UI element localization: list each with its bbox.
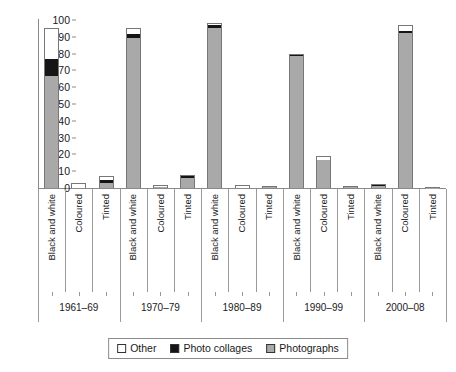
decade-label: 2000–08: [364, 292, 446, 322]
bar: [262, 186, 277, 188]
legend-label-photo-collages: Photo collages: [183, 342, 252, 354]
category-separator: [228, 189, 229, 292]
stacked-bar-chart: 1009080706050403020100 Black and whiteCo…: [0, 0, 456, 372]
plot-area: 1009080706050403020100: [38, 20, 446, 188]
category-separator: [38, 189, 39, 292]
category-label: Black and white: [47, 194, 57, 261]
category-separator: [446, 189, 447, 292]
category-tick-black-and-white: Black and white: [38, 189, 65, 292]
decade-separator: [201, 292, 202, 322]
photo-collages-swatch-icon: [170, 344, 179, 353]
category-tick-coloured: Coloured: [310, 189, 337, 292]
category-tick-coloured: Coloured: [147, 189, 174, 292]
category-label: Tinted: [264, 194, 274, 220]
bar: [235, 185, 250, 188]
category-separator: [419, 189, 420, 292]
bar: [153, 185, 168, 188]
bar: [371, 184, 386, 188]
bar-segment-photographs: [100, 183, 113, 188]
bar-segment-photographs: [263, 187, 276, 188]
bar-segment-photographs: [154, 187, 167, 188]
bar: [71, 183, 86, 188]
category-label: Coloured: [319, 194, 329, 233]
legend-item-photo-collages: Photo collages: [170, 342, 252, 354]
photographs-swatch-icon: [266, 344, 275, 353]
other-swatch-icon: [117, 344, 126, 353]
bar-segment-photographs: [317, 160, 330, 188]
bar: [343, 186, 358, 188]
category-separator: [201, 189, 202, 292]
decade-separator: [283, 292, 284, 322]
decade-label: 1961–69: [38, 292, 120, 322]
bar-segment-photo-collages: [45, 59, 58, 76]
bar-segment-photographs: [127, 38, 140, 188]
category-label: Black and white: [373, 194, 383, 261]
category-separator: [65, 189, 66, 292]
category-label: Coloured: [74, 194, 84, 233]
category-tick-coloured: Coloured: [228, 189, 255, 292]
category-label: Coloured: [237, 194, 247, 233]
bar: [99, 176, 114, 188]
category-tick-black-and-white: Black and white: [283, 189, 310, 292]
decade-label: 1980–89: [201, 292, 283, 322]
category-label: Coloured: [156, 194, 166, 233]
category-tick-tinted: Tinted: [256, 189, 283, 292]
category-label: Black and white: [292, 194, 302, 261]
category-tick-black-and-white: Black and white: [364, 189, 391, 292]
category-label: Coloured: [400, 194, 410, 233]
decade-separator: [120, 292, 121, 322]
bar-segment-photographs: [290, 56, 303, 188]
category-tick-tinted: Tinted: [92, 189, 119, 292]
legend-item-other: Other: [117, 342, 156, 354]
category-label: Tinted: [101, 194, 111, 220]
bar-segment-photographs: [344, 187, 357, 188]
decade-label: 1990–99: [283, 292, 365, 322]
bar: [44, 28, 59, 188]
bar: [207, 23, 222, 188]
category-label: Black and white: [210, 194, 220, 261]
bar-segment-photographs: [208, 28, 221, 188]
bar-segment-other: [45, 29, 58, 60]
category-separator: [337, 189, 338, 292]
category-label: Black and white: [128, 194, 138, 261]
category-separator: [256, 189, 257, 292]
bars-layer: [38, 20, 446, 188]
category-separator: [147, 189, 148, 292]
bar-segment-other: [236, 186, 249, 188]
decade-separator: [38, 292, 39, 322]
bar-segment-photographs: [181, 178, 194, 188]
category-tick-tinted: Tinted: [337, 189, 364, 292]
bar-segment-photographs: [399, 33, 412, 188]
category-label: Tinted: [346, 194, 356, 220]
category-tick-black-and-white: Black and white: [201, 189, 228, 292]
bar: [398, 25, 413, 188]
category-tick-tinted: Tinted: [419, 189, 446, 292]
category-separator: [120, 189, 121, 292]
category-separator: [392, 189, 393, 292]
category-tick-black-and-white: Black and white: [120, 189, 147, 292]
decade-label: 1970–79: [120, 292, 202, 322]
category-tick-coloured: Coloured: [65, 189, 92, 292]
category-separator: [174, 189, 175, 292]
bar: [316, 156, 331, 188]
legend-label-other: Other: [130, 342, 156, 354]
decade-separator: [364, 292, 365, 322]
category-separator: [364, 189, 365, 292]
category-separator: [92, 189, 93, 292]
bar: [126, 28, 141, 188]
decade-separator: [446, 292, 447, 322]
category-separator: [283, 189, 284, 292]
bar-segment-photographs: [372, 186, 385, 188]
decade-label-band: 1961–691970–791980–891990–992000–08: [38, 292, 446, 322]
bar-segment-other: [72, 184, 85, 188]
bar: [180, 175, 195, 188]
chart-legend: Other Photo collages Photographs: [108, 338, 348, 359]
category-separator: [310, 189, 311, 292]
legend-item-photographs: Photographs: [266, 342, 339, 354]
category-tick-tinted: Tinted: [174, 189, 201, 292]
bar: [425, 187, 440, 189]
bar: [289, 54, 304, 188]
bar-segment-photographs: [45, 76, 58, 188]
category-label: Tinted: [183, 194, 193, 220]
category-label-band: Black and whiteColouredTintedBlack and w…: [38, 189, 446, 292]
